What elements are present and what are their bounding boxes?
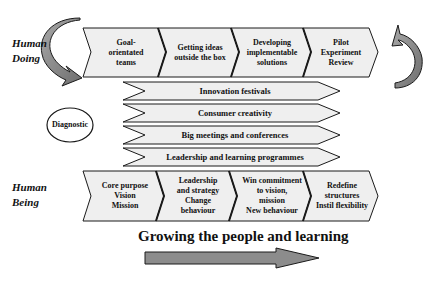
progress-arrow-icon: [145, 248, 319, 268]
chevron-goal-orientated-teams: Goal- orientated teams: [92, 28, 160, 77]
band-consumer-creativity: Consumer creativity: [145, 108, 325, 118]
chevron-pilot-experiment-review: Pilot Experiment Review: [311, 28, 371, 77]
footer-title: Growing the people and learning: [138, 228, 349, 245]
human-being-label: Human Being: [12, 180, 47, 210]
human-doing-label: Human Doing: [12, 36, 47, 66]
curved-arrow-down-icon: [41, 18, 82, 86]
chevron-redefine-structures: Redefine structures Instil flexibility: [310, 171, 374, 221]
band-leadership-learning: Leadership and learning programmes: [145, 152, 325, 162]
chevron-core-purpose: Core purpose Vision Mission: [92, 171, 158, 221]
band-big-meetings: Big meetings and conferences: [145, 130, 325, 140]
chevron-getting-ideas: Getting ideas outside the box: [166, 28, 234, 77]
chevron-win-commitment: Win commitment to vision, mission New be…: [236, 171, 308, 221]
chevron-developing-solutions: Developing implementable solutions: [238, 28, 306, 77]
diagnostic-label: Diagnostic: [47, 118, 93, 132]
band-innovation-festivals: Innovation festivals: [145, 86, 325, 96]
chevron-leadership-strategy: Leadership and strategy Change behaviour: [164, 171, 232, 221]
curved-arrow-up-icon: [392, 25, 422, 88]
